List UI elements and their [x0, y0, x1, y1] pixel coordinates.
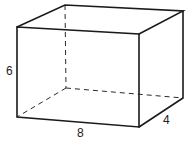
- hidden-edge-back-bottom: [66, 88, 183, 98]
- depth-label: 4: [163, 113, 170, 127]
- front-face: [17, 27, 139, 127]
- height-label: 6: [6, 64, 13, 78]
- hidden-edge-vertical: [65, 5, 66, 88]
- hidden-edge-left-bottom: [17, 88, 66, 117]
- rectangular-prism-diagram: 6 8 4: [0, 0, 195, 148]
- top-face-edges: [17, 5, 183, 34]
- right-face-edges: [139, 11, 183, 127]
- hidden-edges: [17, 5, 183, 117]
- visible-edges: [17, 5, 183, 127]
- length-label: 8: [77, 126, 84, 140]
